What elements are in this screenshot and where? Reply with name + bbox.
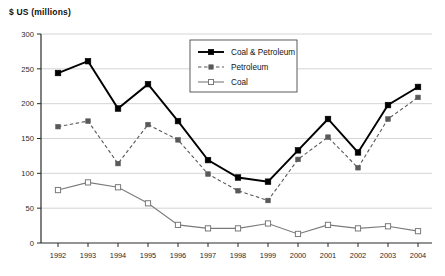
data-point-marker <box>145 201 150 206</box>
line-chart-plot: 050100150200250300 199219931994199519961… <box>0 0 445 276</box>
y-axis-tick-labels: 050100150200250300 <box>21 30 34 248</box>
y-tick-label: 250 <box>21 65 34 74</box>
legend-item-label: Petroleum <box>231 63 268 72</box>
data-point-marker <box>205 157 211 163</box>
data-point-marker <box>415 229 420 234</box>
data-point-marker <box>146 122 151 127</box>
data-point-marker <box>415 84 421 90</box>
series-petroleum <box>56 95 421 203</box>
data-point-marker <box>356 165 361 170</box>
data-point-marker <box>296 157 301 162</box>
y-tick-label: 100 <box>21 169 34 178</box>
data-point-marker <box>175 118 181 124</box>
data-point-marker <box>56 124 61 129</box>
data-point-marker <box>176 138 181 143</box>
data-point-marker <box>115 106 121 112</box>
legend-marker-swatch <box>209 65 213 69</box>
data-point-marker <box>236 188 241 193</box>
x-tick-label: 2001 <box>320 251 336 260</box>
data-point-marker <box>385 224 390 229</box>
y-tick-label: 0 <box>30 239 34 248</box>
data-point-marker <box>205 226 210 231</box>
x-axis-tick-labels: 1992199319941995199619971998199920002001… <box>50 251 426 260</box>
series-line <box>58 97 418 200</box>
x-tick-label: 1997 <box>200 251 216 260</box>
data-point-marker <box>355 150 361 156</box>
legend-item-label: Coal <box>231 78 248 87</box>
data-point-marker <box>355 226 360 231</box>
y-tick-label: 50 <box>26 204 34 213</box>
data-point-marker <box>386 117 391 122</box>
x-tick-label: 2003 <box>380 251 396 260</box>
data-point-marker <box>55 187 60 192</box>
chart-figure: $ US (millions) 050100150200250300 19921… <box>0 0 445 276</box>
y-tick-label: 300 <box>21 30 34 39</box>
x-tick-label: 1994 <box>110 251 126 260</box>
data-point-marker <box>85 58 91 64</box>
data-point-marker <box>235 175 241 181</box>
data-point-marker <box>266 198 271 203</box>
x-tick-label: 1992 <box>50 251 66 260</box>
data-point-marker <box>115 185 120 190</box>
data-point-marker <box>175 222 180 227</box>
data-point-marker <box>145 81 151 87</box>
x-tick-label: 1993 <box>80 251 96 260</box>
data-point-marker <box>265 179 271 185</box>
x-tick-label: 2000 <box>290 251 306 260</box>
data-point-marker <box>206 172 211 177</box>
data-point-marker <box>385 102 391 108</box>
legend-item-label: Coal & Petroleum <box>231 48 295 57</box>
data-point-marker <box>326 135 331 140</box>
y-tick-label: 200 <box>21 99 34 108</box>
chart-legend: Coal & PetroleumPetroleumCoal <box>190 40 297 92</box>
data-point-marker <box>85 180 90 185</box>
data-point-marker <box>235 226 240 231</box>
x-tick-label: 1998 <box>230 251 246 260</box>
data-point-marker <box>325 222 330 227</box>
data-point-marker <box>325 116 331 122</box>
legend-marker-swatch <box>208 49 213 54</box>
data-point-marker <box>86 119 91 124</box>
y-tick-label: 150 <box>21 134 34 143</box>
x-tick-label: 2004 <box>410 251 426 260</box>
x-tick-label: 1999 <box>260 251 276 260</box>
data-point-marker <box>416 95 421 100</box>
data-point-marker <box>55 70 61 76</box>
x-axis-ticks <box>58 243 418 247</box>
x-tick-label: 1996 <box>170 251 186 260</box>
x-tick-label: 2002 <box>350 251 366 260</box>
legend-marker-swatch <box>209 80 214 85</box>
data-point-marker <box>295 231 300 236</box>
data-point-marker <box>116 161 121 166</box>
x-tick-label: 1995 <box>140 251 156 260</box>
data-point-marker <box>265 221 270 226</box>
data-point-marker <box>295 148 301 154</box>
